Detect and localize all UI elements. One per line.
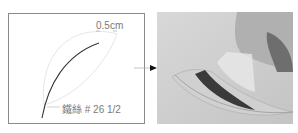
- petal-photo: [157, 12, 293, 124]
- wire-label: 鐵絲 # 26 1/2: [62, 101, 121, 116]
- gap-label: 0.5cm: [96, 20, 123, 31]
- arrow-head-icon: [150, 65, 157, 71]
